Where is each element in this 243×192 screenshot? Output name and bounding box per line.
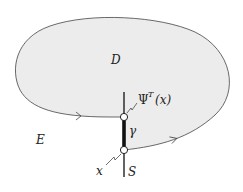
- label-psi-arg: (x): [155, 93, 171, 107]
- label-s: S: [128, 165, 136, 179]
- label-x: x: [96, 164, 103, 178]
- lower-point: [120, 146, 127, 153]
- diagram: D E S γ x Ψ T (x): [0, 0, 243, 192]
- label-e: E: [35, 133, 45, 147]
- label-gamma: γ: [129, 124, 137, 138]
- label-psi-sup: T: [148, 90, 154, 99]
- upper-point: [120, 113, 127, 120]
- label-d: D: [110, 53, 121, 67]
- zigzag-x-icon: [106, 154, 121, 165]
